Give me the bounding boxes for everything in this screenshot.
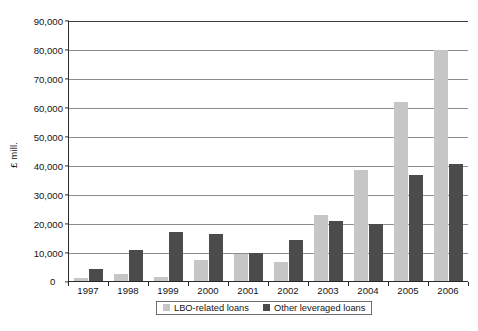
legend-label: Other leveraged loans (274, 303, 365, 313)
y-axis-tick-label: 40,000 (34, 161, 63, 172)
bar (369, 224, 383, 281)
x-axis-tick-label: 2005 (388, 285, 428, 296)
y-axis-tick-label: 20,000 (34, 219, 63, 230)
plot-area: 90,00080,00070,00060,00050,00040,00030,0… (68, 21, 468, 282)
bar (234, 254, 248, 281)
y-axis-tick-label: 80,000 (34, 45, 63, 56)
bar (114, 274, 128, 281)
y-axis-tick-label: 30,000 (34, 190, 63, 201)
y-axis-tick-label: 70,000 (34, 74, 63, 85)
legend-swatch-icon (263, 304, 270, 311)
bar (409, 175, 423, 281)
y-axis-zero-label: 0 (50, 276, 55, 287)
y-axis-tick-label: 90,000 (34, 16, 63, 27)
x-axis-tick-label: 2006 (428, 285, 468, 296)
bar (329, 221, 343, 281)
bar (209, 234, 223, 281)
bar (154, 277, 168, 281)
bar-group (69, 21, 109, 281)
legend-label: LBO-related loans (174, 303, 249, 313)
x-axis-tick-mark (468, 282, 469, 286)
bar-group (189, 21, 229, 281)
x-axis-tick-label: 2003 (308, 285, 348, 296)
bar-group (269, 21, 309, 281)
bar-group (388, 21, 428, 281)
legend-entry: Other leveraged loans (263, 303, 365, 313)
bar-group (308, 21, 348, 281)
bar (394, 102, 408, 281)
x-axis-tick-labels: 1997199819992000200120022003200420052006 (68, 285, 468, 296)
y-axis-tick-label: 10,000 (34, 248, 63, 259)
bar (354, 170, 368, 281)
legend-swatch-icon (163, 304, 170, 311)
bar (274, 262, 288, 281)
bar-chart-figure: £ mill. 90,00080,00070,00060,00050,00040… (0, 0, 478, 331)
bar (434, 50, 448, 281)
bar (194, 260, 208, 281)
y-axis-tick-label: 60,000 (34, 103, 63, 114)
bar (129, 250, 143, 281)
bar (314, 215, 328, 281)
legend-entry: LBO-related loans (163, 303, 249, 313)
x-axis-tick-label: 1998 (108, 285, 148, 296)
x-axis-tick-label: 2000 (188, 285, 228, 296)
bar (249, 253, 263, 281)
bar-group (229, 21, 269, 281)
bar-group (149, 21, 189, 281)
plot-inner: 90,00080,00070,00060,00050,00040,00030,0… (69, 21, 468, 281)
chart-legend: LBO-related loansOther leveraged loans (156, 301, 372, 315)
x-axis-tick-label: 2004 (348, 285, 388, 296)
bar (74, 278, 88, 281)
x-axis-tick-label: 2001 (228, 285, 268, 296)
bar-group (348, 21, 388, 281)
x-axis-tick-label: 1999 (148, 285, 188, 296)
y-axis-title: £ mill. (8, 120, 20, 190)
y-axis-tick-label: 50,000 (34, 132, 63, 143)
x-axis-tick-label: 1997 (68, 285, 108, 296)
bar-group (428, 21, 468, 281)
bar-groups (69, 21, 468, 281)
bar (449, 164, 463, 281)
bar-group (109, 21, 149, 281)
bar (289, 240, 303, 281)
bar (89, 269, 103, 281)
bar (169, 232, 183, 281)
x-axis-tick-label: 2002 (268, 285, 308, 296)
